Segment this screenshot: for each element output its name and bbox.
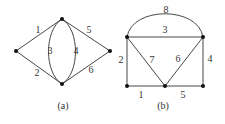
graph-a-edge-label-6: 6 xyxy=(89,64,94,75)
graph-b-edge-label-3: 3 xyxy=(163,24,168,35)
graph-a-caption: (a) xyxy=(57,100,68,112)
graph-a-edge-label-4: 4 xyxy=(74,45,79,56)
graph-b-edge-label-4: 4 xyxy=(208,53,213,64)
graph-a-edge-label-5: 5 xyxy=(87,24,92,35)
graph-b-edge-6 xyxy=(165,37,203,86)
graph-a-node-top xyxy=(60,17,64,21)
graph-figure: 1 2 3 4 5 6 (a) 8 3 2 7 6 4 1 5 (b) xyxy=(0,0,225,124)
graph-a-node-left xyxy=(14,49,18,53)
graph-a-edge-label-2: 2 xyxy=(35,67,40,78)
graph-b-edge-label-1: 1 xyxy=(139,89,144,100)
graph-b-edge-7 xyxy=(127,37,165,86)
graph-b-edge-label-8: 8 xyxy=(164,4,169,15)
graph-b-node-bottom-left xyxy=(125,84,129,88)
graph-b-caption: (b) xyxy=(157,100,169,112)
graph-b-edge-label-6: 6 xyxy=(176,53,181,64)
graph-b-edge-label-7: 7 xyxy=(150,54,155,65)
graph-a-edge-label-1: 1 xyxy=(36,24,41,35)
graph-b-node-top-left xyxy=(125,35,129,39)
graph-b-node-top-right xyxy=(201,35,205,39)
graph-a-edge-6 xyxy=(62,51,110,84)
graph-b: 8 3 2 7 6 4 1 5 (b) xyxy=(119,4,213,112)
graph-a-node-right xyxy=(108,49,112,53)
graph-a-node-bottom xyxy=(60,82,64,86)
graph-a-edge-label-3: 3 xyxy=(48,45,53,56)
graph-b-edge-label-5: 5 xyxy=(181,89,186,100)
graph-b-edge-label-2: 2 xyxy=(119,54,124,65)
graph-b-node-bottom-middle xyxy=(163,84,167,88)
graph-b-node-bottom-right xyxy=(201,84,205,88)
graph-a: 1 2 3 4 5 6 (a) xyxy=(14,17,112,112)
